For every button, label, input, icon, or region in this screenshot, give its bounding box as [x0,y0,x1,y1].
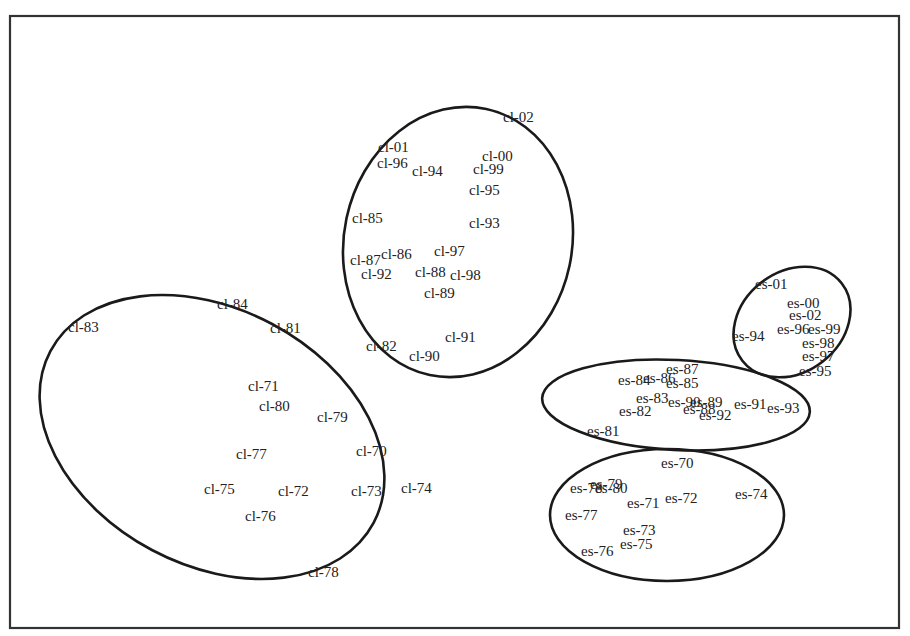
point-label: cl-79 [317,409,348,425]
point-label: cl-70 [356,443,387,459]
point-label: cl-74 [401,480,432,496]
point-label: es-74 [735,486,768,502]
point-label: cl-01 [378,139,409,155]
point-label: cl-76 [245,508,276,524]
point-label: cl-93 [469,215,500,231]
point-label: cl-94 [412,163,443,179]
point-label: cl-92 [361,266,392,282]
point-label: es-97 [802,348,835,364]
point-label: cl-77 [236,446,267,462]
point-label: es-80 [595,480,628,496]
point-label: cl-80 [259,398,290,414]
point-label: cl-88 [415,264,446,280]
point-label: es-01 [755,276,788,292]
cluster-ellipse-cl-recent [318,85,598,398]
point-label: cl-86 [381,246,412,262]
point-label: cl-99 [473,161,504,177]
point-label: es-85 [666,375,699,391]
point-label: es-92 [699,407,732,423]
point-label: es-93 [767,400,800,416]
point-label: cl-95 [469,182,500,198]
cluster-scatter-plot: cl-02cl-01cl-96cl-94cl-00cl-99cl-95cl-85… [0,0,910,636]
point-label: cl-82 [366,338,397,354]
point-label: cl-81 [270,320,301,336]
point-label: es-95 [799,363,832,379]
point-label: cl-91 [445,329,476,345]
point-label: cl-85 [352,210,383,226]
point-label: es-72 [665,490,698,506]
point-label: cl-72 [278,483,309,499]
point-label: cl-84 [217,296,248,312]
point-label: es-76 [581,543,614,559]
point-label: cl-73 [351,483,382,499]
point-label: cl-96 [377,155,408,171]
point-label: es-71 [627,495,660,511]
point-label: es-94 [732,328,765,344]
point-label: cl-90 [409,348,440,364]
point-label: cl-75 [204,481,235,497]
point-label: es-91 [734,396,767,412]
point-label: es-75 [620,536,653,552]
point-label: cl-02 [503,109,534,125]
point-label: cl-98 [450,267,481,283]
point-label: es-82 [619,403,652,419]
point-label: es-77 [565,507,598,523]
point-labels: cl-02cl-01cl-96cl-94cl-00cl-99cl-95cl-85… [68,109,841,580]
point-label: es-81 [587,423,620,439]
point-label: cl-83 [68,319,99,335]
point-label: es-70 [661,455,694,471]
point-label: cl-78 [308,564,339,580]
point-label: cl-97 [434,243,465,259]
point-label: cl-89 [424,285,455,301]
point-label: cl-71 [248,378,279,394]
